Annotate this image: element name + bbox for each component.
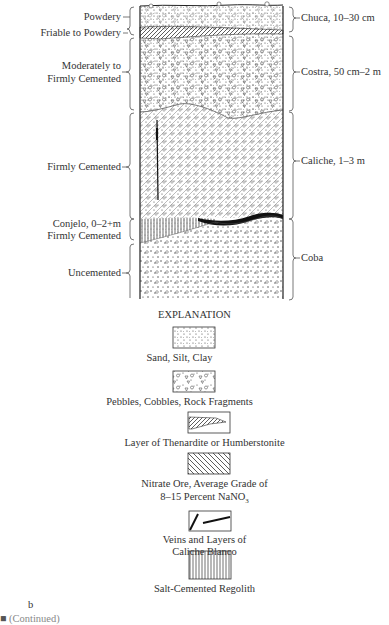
sand-silt-clay-pattern-icon: [173, 327, 215, 348]
label-coba: Coba: [301, 252, 323, 264]
left-ticks: [122, 17, 130, 273]
legend-label-nitrate-ore-2: 8–15 Percent NaNO3: [10, 491, 389, 507]
label-caliche: Caliche, 1–3 m: [301, 155, 365, 167]
legend-label-sand-silt-clay: Sand, Silt, Clay: [0, 352, 374, 364]
legend-label-pebbles: Pebbles, Cobbles, Rock Fragments: [0, 396, 374, 408]
nitrate-ore-hatch-icon: [188, 453, 230, 474]
legend-title: EXPLANATION: [0, 309, 389, 321]
right-ticks: [296, 18, 300, 258]
legend-label-caliche-blanco-1: Veins and Layers of: [10, 534, 389, 546]
label-friable-to-powdery: Friable to Powdery: [41, 27, 122, 39]
label-moderately-cemented-2: Firmly Cemented: [47, 73, 121, 85]
label-conjelo-firmly-cemented: Firmly Cemented: [47, 230, 121, 242]
figure-caption-fragment: ■ (Continued): [0, 613, 60, 625]
label-costra: Costra, 50 cm–2 m: [301, 66, 381, 78]
soil-column: [140, 2, 283, 299]
panel-label: b: [28, 599, 33, 611]
right-braces: [289, 7, 296, 300]
label-chuca: Chuca, 10–30 cm: [301, 12, 375, 24]
left-braces: [126, 7, 134, 298]
label-uncemented: Uncemented: [68, 267, 121, 279]
legend-label-salt-regolith: Salt-Cemented Regolith: [10, 583, 389, 595]
legend-label-nitrate-ore-1: Nitrate Ore, Average Grade of: [10, 478, 389, 490]
label-powdery: Powdery: [84, 11, 121, 23]
label-firmly-cemented: Firmly Cemented: [47, 161, 121, 173]
caliche-blanco-veins-icon: [189, 511, 231, 531]
legend-label-caliche-blanco-2: Caliche Blanco: [10, 546, 389, 558]
label-conjelo: Conjelo, 0–2+m: [53, 218, 121, 230]
thenardite-layer-icon: [188, 412, 230, 433]
label-moderately-cemented-1: Moderately to: [62, 60, 121, 72]
legend-label-thenardite: Layer of Thenardite or Humberstonite: [10, 437, 389, 449]
pebbles-pattern-icon: [173, 371, 215, 392]
